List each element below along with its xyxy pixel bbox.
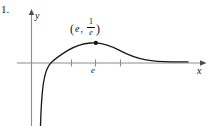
maximum-point-marker xyxy=(94,41,98,45)
graph-svg xyxy=(0,0,211,126)
y-axis-label: y xyxy=(35,11,39,21)
x-axis-label: x xyxy=(197,66,201,76)
point-label-comma: , xyxy=(80,24,86,34)
y-axis-arrow-icon xyxy=(29,9,34,15)
x-tick-label-e: e xyxy=(91,66,95,75)
curve-ln-x-over-x xyxy=(41,43,189,126)
fraction-denominator: e xyxy=(87,29,95,37)
fraction-numerator: 1 xyxy=(87,18,95,26)
figure-container: 1. y x e ( e , 1 e ) xyxy=(0,0,211,126)
point-label-close-paren: ) xyxy=(96,23,100,35)
maximum-point-label: ( e , 1 e ) xyxy=(70,19,100,38)
point-label-fraction: 1 e xyxy=(87,18,95,37)
